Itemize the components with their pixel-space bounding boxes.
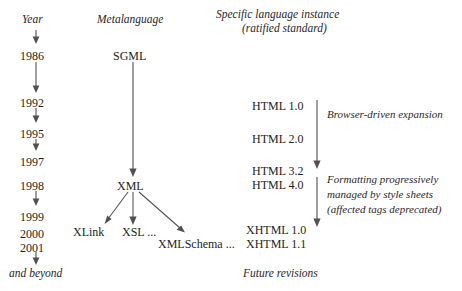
- node-xlink: XLink: [73, 226, 104, 238]
- node-xml: XML: [117, 180, 144, 192]
- annotation-browser-expansion: Browser-driven expansion: [327, 107, 443, 121]
- arrowhead-year-2: [33, 86, 40, 94]
- column-header-metalanguage: Metalanguage: [97, 14, 163, 26]
- year-1997: 1997: [20, 156, 44, 168]
- year-1986: 1986: [20, 50, 44, 62]
- node-html-2-0: HTML 2.0: [252, 133, 304, 145]
- node-html-4-0: HTML 4.0: [252, 179, 304, 191]
- arrowhead-xml-xsl: [129, 217, 136, 226]
- arrow-xml-to-xmlschema: [139, 192, 180, 228]
- arrowhead-year-6: [33, 258, 40, 266]
- node-xsl: XSL ...: [122, 226, 156, 238]
- arrowhead-year-5: [33, 199, 40, 207]
- arrowhead-xml-xmlschema: [177, 225, 186, 232]
- column-header-instance-line2: (ratified standard): [242, 23, 327, 35]
- arrowhead-year-1: [33, 37, 40, 45]
- arrowhead-xml-xlink: [105, 216, 112, 224]
- node-html-1-0: HTML 1.0: [252, 100, 304, 112]
- instance-footer-future-revisions: Future revisions: [243, 268, 318, 280]
- year-1992: 1992: [20, 97, 44, 109]
- column-header-year: Year: [22, 14, 43, 26]
- arrowhead-browser-expansion: [313, 161, 320, 170]
- node-html-3-2: HTML 3.2: [252, 165, 304, 177]
- year-footer-and-beyond: and beyond: [9, 268, 62, 280]
- node-xmlschema: XMLSchema ...: [158, 238, 235, 250]
- annotation-stylesheets-line3: (affected tags deprecated): [327, 202, 441, 216]
- year-1995: 1995: [20, 128, 44, 140]
- arrowhead-year-4: [33, 144, 40, 152]
- year-2000: 2000: [20, 228, 44, 240]
- node-sgml: SGML: [113, 50, 146, 62]
- column-header-instance-line1: Specific language instance: [216, 9, 339, 21]
- diagram-canvas: Year Metalanguage Specific language inst…: [0, 0, 462, 291]
- node-xhtml-1-1: XHTML 1.1: [246, 238, 306, 250]
- annotation-stylesheets-line2: managed by style sheets: [327, 187, 433, 201]
- arrow-xml-to-xlink: [108, 192, 128, 219]
- node-xhtml-1-0: XHTML 1.0: [246, 224, 306, 236]
- year-1998: 1998: [20, 180, 44, 192]
- arrowhead-year-3: [33, 116, 40, 124]
- arrowhead-stylesheet: [313, 219, 320, 228]
- year-1999: 1999: [20, 211, 44, 223]
- year-2001: 2001: [20, 242, 44, 254]
- arrowhead-sgml-xml: [129, 169, 136, 178]
- annotation-stylesheets-line1: Formatting progressively: [327, 172, 438, 186]
